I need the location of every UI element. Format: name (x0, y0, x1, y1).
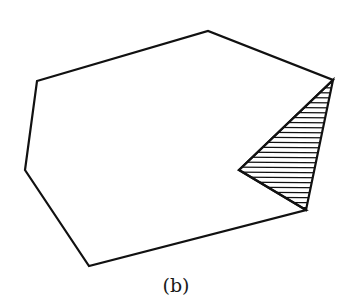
hatch-line (234, 172, 338, 173)
hatch-line (234, 182, 338, 183)
hatch-line (234, 142, 338, 143)
polygon-outline (25, 31, 333, 266)
hatch-line (234, 167, 338, 168)
hatch-line (234, 112, 338, 113)
polygon-diagram (0, 0, 352, 301)
hatch-line (234, 187, 338, 188)
hatch-line (234, 92, 338, 93)
hatch-line (234, 157, 338, 158)
hatch-line (234, 122, 338, 123)
hatch-line (234, 202, 338, 203)
notch-triangle-outline (239, 80, 333, 210)
hatch-line (234, 147, 338, 148)
hatch-line (234, 117, 338, 118)
hatch-line (234, 137, 338, 138)
hatch-line (234, 82, 338, 83)
hatch-line (234, 152, 338, 153)
hatch-line (234, 162, 338, 163)
hatch-line (234, 102, 338, 103)
hatch-line (234, 97, 338, 98)
figure-caption: (b) (0, 274, 352, 296)
hatch-line (234, 87, 338, 88)
hatched-notch-region (234, 82, 338, 208)
hatch-line (234, 107, 338, 108)
hatch-line (234, 207, 338, 208)
hatch-line (234, 192, 338, 193)
